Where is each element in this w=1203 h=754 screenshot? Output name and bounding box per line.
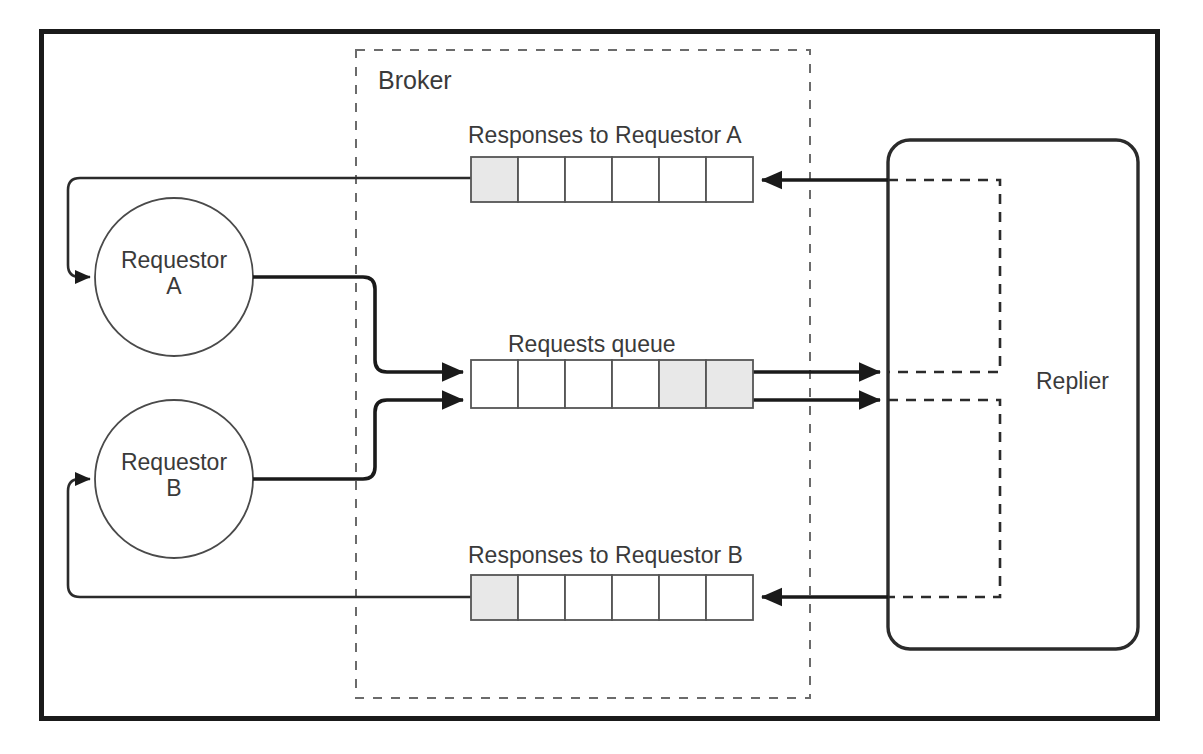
queue-cell[interactable]	[612, 360, 659, 408]
queue-responses-b[interactable]	[471, 575, 753, 620]
diagram-canvas: Broker Responses to Requestor A Requests…	[0, 0, 1203, 754]
queue-responses-b-label: Responses to Requestor B	[468, 542, 743, 569]
queue-cell[interactable]	[659, 575, 706, 620]
queue-cell[interactable]	[518, 575, 565, 620]
queue-requests-label: Requests queue	[508, 331, 676, 358]
replier-label: Replier	[1036, 368, 1109, 395]
queue-cell[interactable]	[565, 575, 612, 620]
queue-cell[interactable]	[612, 157, 659, 202]
queue-cell[interactable]	[612, 575, 659, 620]
requestor-a-label-line2: A	[89, 273, 259, 299]
queue-cell[interactable]	[565, 157, 612, 202]
queue-cell[interactable]	[706, 360, 753, 408]
queue-cell[interactable]	[471, 575, 518, 620]
diagram-svg	[0, 0, 1203, 754]
queue-cell[interactable]	[565, 360, 612, 408]
requestor-b-label-line2: B	[89, 475, 259, 501]
broker-label: Broker	[378, 66, 452, 95]
requestor-a-label: Requestor A	[89, 247, 259, 300]
flow-requestor-a-to-requests[interactable]	[253, 277, 463, 372]
queue-requests[interactable]	[471, 360, 753, 408]
queue-responses-a[interactable]	[471, 157, 753, 202]
replier-internal-path-bottom	[888, 400, 1000, 597]
queue-cell[interactable]	[659, 157, 706, 202]
queue-responses-a-label: Responses to Requestor A	[468, 122, 742, 149]
queue-cell[interactable]	[706, 157, 753, 202]
requestor-b-label: Requestor B	[89, 449, 259, 502]
queue-cell[interactable]	[659, 360, 706, 408]
flow-requestor-b-to-requests[interactable]	[253, 400, 463, 479]
queue-cell[interactable]	[706, 575, 753, 620]
replier-internal-path-top	[888, 180, 1000, 372]
queue-cell[interactable]	[471, 360, 518, 408]
requestor-b-label-line1: Requestor	[89, 449, 259, 475]
queue-cell[interactable]	[471, 157, 518, 202]
requestor-a-label-line1: Requestor	[89, 247, 259, 273]
queue-cell[interactable]	[518, 360, 565, 408]
queue-cell[interactable]	[518, 157, 565, 202]
